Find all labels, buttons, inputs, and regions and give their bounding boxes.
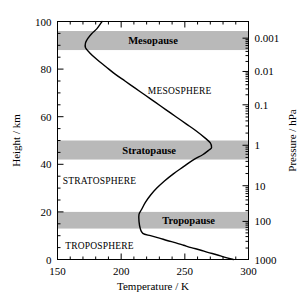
y-tick-label-100: 100	[35, 16, 52, 28]
band-label-stratopause: Stratopause	[122, 145, 176, 156]
layer-label-troposphere: TROPOSPHERE	[65, 241, 134, 251]
band-label-tropopause: Tropopause	[162, 215, 215, 226]
layer-label-stratosphere: STRATOSPHERE	[63, 176, 137, 186]
y-tick-label-0: 0	[46, 254, 52, 266]
band-tropopause	[58, 212, 249, 229]
atmosphere-temperature-profile-figure: 150200250300Temperature / K020406080100H…	[0, 0, 306, 306]
y-tick-label-20: 20	[41, 206, 53, 218]
x-tick-label-300: 300	[240, 265, 257, 277]
x-tick-label-150: 150	[49, 265, 66, 277]
y-tick-label-40: 40	[41, 158, 53, 170]
y-tick-label-60: 60	[41, 111, 53, 123]
y2-tick-label-0.001: 0.001	[255, 32, 280, 44]
x-axis-title: Temperature / K	[117, 280, 189, 292]
y2-tick-label-1: 1	[255, 139, 261, 151]
y-tick-label-80: 80	[41, 63, 53, 75]
x-tick-label-250: 250	[177, 265, 194, 277]
x-tick-label-200: 200	[113, 265, 130, 277]
band-label-mesopause: Mesopause	[128, 35, 178, 46]
chart-canvas: 150200250300Temperature / K020406080100H…	[0, 0, 306, 306]
y2-tick-label-10: 10	[255, 180, 267, 192]
layer-label-mesosphere: MESOSPHERE	[148, 86, 212, 96]
y2-axis-title: Pressure / hPa	[286, 109, 298, 171]
y-axis-title: Height / km	[10, 114, 22, 167]
y2-tick-label-1000: 1000	[255, 254, 278, 266]
y2-tick-label-0.01: 0.01	[255, 65, 274, 77]
y2-tick-label-0.1: 0.1	[255, 99, 269, 111]
y2-tick-label-100: 100	[255, 215, 272, 227]
